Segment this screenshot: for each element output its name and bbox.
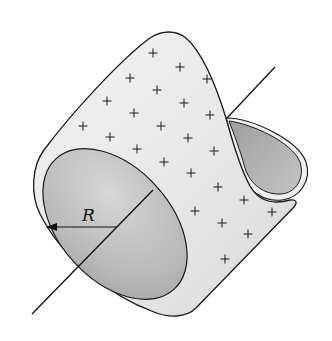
charged-cylinder-diagram: R [0, 0, 332, 341]
axis-line-back [227, 67, 275, 118]
radius-label: R [81, 205, 95, 225]
